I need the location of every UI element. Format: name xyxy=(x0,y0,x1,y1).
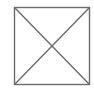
crossed-box-diagram xyxy=(0,0,94,88)
